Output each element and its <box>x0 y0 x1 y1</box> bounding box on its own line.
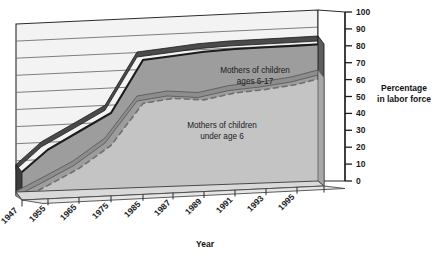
annotation-upper-line2: ages 6-17 <box>237 77 274 86</box>
annotation-lower-line1: Mothers of children <box>187 121 257 130</box>
y-tick-label-80: 80 <box>356 41 366 51</box>
y-axis-title: Percentage in labor force <box>377 83 431 104</box>
y-axis-title-line2: in labor force <box>377 94 431 104</box>
y-tick-label-100: 100 <box>356 7 370 17</box>
x-axis-title: Year <box>196 239 215 249</box>
y-tick-label-10: 10 <box>356 159 366 169</box>
y-tick-label-70: 70 <box>356 58 366 68</box>
chart-container: 100 90 80 70 60 50 40 30 20 10 0 Percent… <box>0 0 439 265</box>
y-tick-label-50: 50 <box>356 92 366 102</box>
series-lower-right-face <box>318 70 324 186</box>
y-axis-title-line1: Percentage <box>381 83 427 93</box>
y-tick-label-30: 30 <box>356 125 366 135</box>
y-tick-label-90: 90 <box>356 24 366 34</box>
annotation-lower-line2: under age 6 <box>200 132 244 141</box>
annotation-upper-line1: Mothers of children <box>220 66 290 75</box>
area-chart-3d: 100 90 80 70 60 50 40 30 20 10 0 Percent… <box>0 0 439 265</box>
y-tick-label-60: 60 <box>356 75 366 85</box>
y-tick-label-0: 0 <box>356 176 361 186</box>
y-tick-label-40: 40 <box>356 108 366 118</box>
y-tick-label-20: 20 <box>356 142 366 152</box>
